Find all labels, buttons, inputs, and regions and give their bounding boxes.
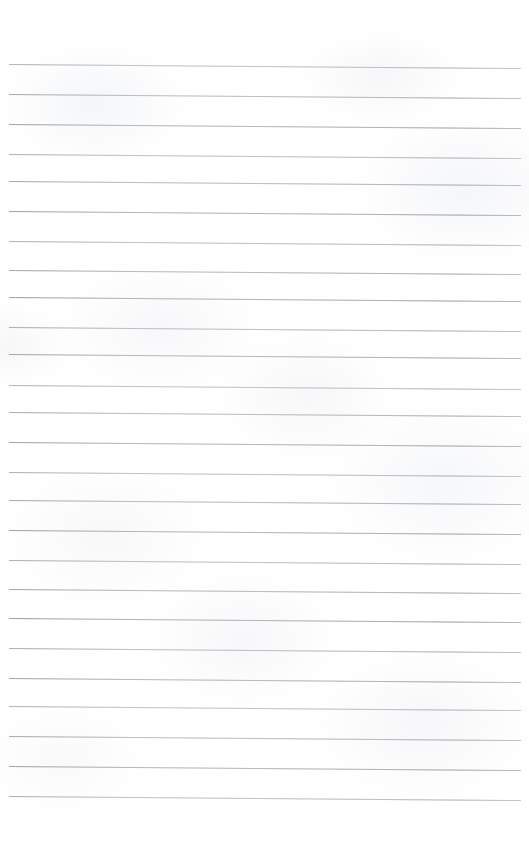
rule-line — [9, 589, 521, 594]
notebook-page — [0, 0, 529, 863]
rule-line — [9, 181, 521, 186]
rule-line — [9, 472, 521, 477]
paper-texture — [0, 0, 529, 863]
rule-line — [9, 94, 521, 99]
rule-line — [9, 736, 521, 741]
rule-line — [9, 648, 521, 653]
ruled-lines-group — [0, 0, 529, 863]
rule-line — [9, 766, 521, 771]
rule-line — [9, 796, 521, 801]
rule-line — [9, 241, 521, 246]
rule-line — [9, 412, 521, 417]
rule-line — [9, 500, 521, 505]
rule-line — [9, 354, 521, 359]
rule-line — [9, 618, 521, 623]
rule-line — [9, 385, 521, 390]
rule-line — [9, 124, 521, 129]
rule-line — [9, 327, 521, 332]
rule-line — [9, 706, 521, 711]
rule-line — [9, 297, 521, 302]
rule-line — [9, 678, 521, 683]
rule-line — [9, 560, 521, 565]
rule-line — [9, 211, 521, 216]
rule-line — [9, 270, 521, 275]
rule-line — [9, 530, 521, 535]
rule-line — [9, 64, 521, 69]
rule-line — [9, 442, 521, 447]
rule-line — [9, 154, 521, 159]
